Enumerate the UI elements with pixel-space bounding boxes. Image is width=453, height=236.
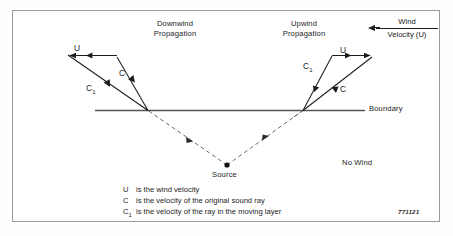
figure-container: Downwind Propagation Upwind Propagation …: [0, 0, 453, 236]
wind-velocity-callout: Wind Velocity (U): [376, 17, 438, 40]
label-no-wind: No Wind: [342, 158, 372, 168]
legend-symbol-c: C: [123, 195, 136, 206]
ray-c-left: [117, 57, 148, 111]
legend-symbol-u: U: [123, 184, 136, 195]
heading-downwind-line2: Propagation: [139, 29, 211, 39]
wind-callout-bottom: Velocity (U): [376, 29, 438, 40]
legend-text-u: is the wind velocity: [136, 185, 199, 194]
figure-code: 771121: [398, 208, 419, 215]
label-source: Source: [212, 170, 237, 180]
label-c-left: C: [119, 69, 125, 79]
source-point: [224, 162, 229, 167]
ray-c-right-arrow-icon: [332, 86, 339, 93]
vector-u-left-mid-arrow-icon: [86, 53, 92, 59]
heading-upwind-line2: Propagation: [268, 29, 340, 39]
dashed-ray-left-arrow-icon: [186, 137, 193, 143]
label-u-right: U: [340, 46, 346, 56]
legend: Uis the wind velocity Cis the velocity o…: [123, 184, 281, 221]
legend-text-c: is the velocity of the original sound ra…: [136, 196, 265, 205]
heading-upwind-line1: Upwind: [268, 19, 340, 29]
heading-upwind: Upwind Propagation: [268, 19, 340, 38]
label-boundary: Boundary: [369, 104, 403, 114]
label-c-right: C: [340, 85, 346, 95]
legend-row-c1: C1is the velocity of the ray in the movi…: [123, 206, 281, 221]
label-c1-right-sub: 1: [309, 67, 312, 73]
ray-c-right: [303, 57, 372, 111]
legend-symbol-c1-sub: 1: [128, 212, 131, 218]
label-c1-left-sub: 1: [92, 89, 95, 95]
wind-callout-top: Wind: [376, 17, 438, 28]
legend-text-c1: is the velocity of the ray in the moving…: [136, 207, 281, 216]
heading-downwind-line1: Downwind: [139, 19, 211, 29]
label-u-left: U: [74, 44, 80, 54]
legend-symbol-c1: C1: [123, 206, 136, 221]
label-c1-left: C1: [86, 84, 96, 94]
legend-row-c: Cis the velocity of the original sound r…: [123, 195, 281, 206]
legend-row-u: Uis the wind velocity: [123, 184, 281, 195]
label-c1-right: C1: [303, 62, 313, 72]
heading-downwind: Downwind Propagation: [139, 19, 211, 38]
